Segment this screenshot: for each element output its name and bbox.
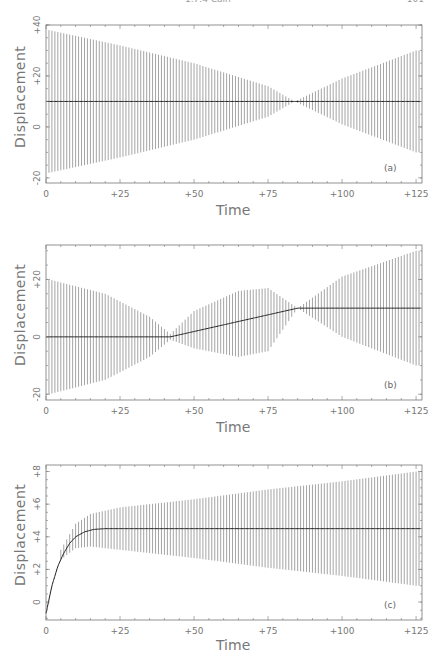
x-tick-label: +100 bbox=[330, 626, 355, 636]
x-axis-label: Time bbox=[216, 637, 250, 653]
panel-label: (c) bbox=[384, 600, 396, 610]
y-tick-label: 0 bbox=[32, 599, 42, 605]
y-tick-label: +2 bbox=[32, 563, 42, 576]
y-tick-label: +6 bbox=[32, 497, 42, 511]
chart-c-plot: 0+25+50+75+100+1250+2+4+6+8(c) bbox=[0, 0, 438, 658]
x-tick-label: +125 bbox=[404, 626, 429, 636]
y-tick-label: +8 bbox=[32, 465, 42, 479]
x-tick-label: +75 bbox=[259, 626, 278, 636]
y-axis-label: Displacement bbox=[12, 484, 28, 586]
chart-panel-c: 0+25+50+75+100+1250+2+4+6+8(c) Displacem… bbox=[0, 0, 438, 658]
y-tick-label: +4 bbox=[32, 530, 42, 544]
x-tick-label: 0 bbox=[43, 626, 49, 636]
x-tick-label: +50 bbox=[185, 626, 204, 636]
x-tick-label: +25 bbox=[111, 626, 130, 636]
